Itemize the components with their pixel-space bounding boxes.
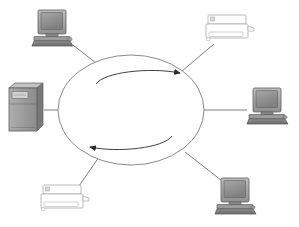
node-left-server-tower[interactable] (9, 83, 43, 131)
network-ring (58, 55, 204, 165)
computer-base-icon (217, 205, 253, 210)
diagram-canvas (0, 0, 299, 227)
printer-foot-icon (42, 208, 46, 211)
printer-indicator-icon (211, 17, 215, 21)
mouse-icon (251, 206, 255, 209)
node-right-desktop-computer[interactable] (247, 88, 288, 124)
keyboard-icon (215, 209, 256, 214)
mouse-icon (283, 116, 287, 119)
link-bottom-right (185, 152, 221, 180)
monitor-screen-icon (224, 181, 246, 198)
node-top-left-desktop-computer[interactable] (32, 10, 73, 46)
printer-output-slot-icon (209, 32, 243, 37)
keyboard-icon (247, 119, 288, 124)
printer-output-slot-icon (44, 202, 78, 207)
node-top-right-printer[interactable] (206, 15, 254, 41)
server-side-face-icon (37, 83, 43, 131)
printer-paper-feed-icon (248, 26, 254, 31)
link-top-right (182, 44, 214, 71)
keyboard-icon (32, 41, 73, 46)
printer-indicator-icon (46, 187, 50, 191)
mouse-icon (68, 38, 72, 41)
printer-foot-icon (207, 38, 211, 41)
node-bottom-right-desktop-computer[interactable] (215, 178, 256, 214)
printer-paper-feed-icon (83, 196, 89, 201)
node-bottom-left-printer[interactable] (41, 185, 89, 211)
computer-base-icon (249, 115, 285, 120)
monitor-screen-icon (41, 13, 63, 30)
monitor-screen-icon (256, 91, 278, 108)
computer-base-icon (34, 37, 70, 42)
network-diagram (0, 0, 299, 227)
